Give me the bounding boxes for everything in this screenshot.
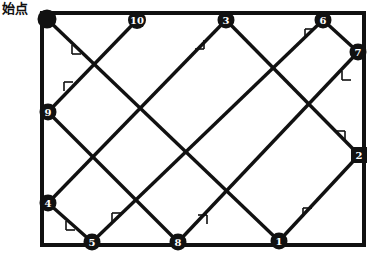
path-segment-1-to-2 bbox=[279, 155, 359, 241]
bounce-node-shape bbox=[84, 234, 101, 251]
bounce-node-1: 1 bbox=[271, 233, 288, 250]
bounce-node-shape bbox=[40, 104, 57, 121]
path-segment-7-to-8 bbox=[178, 52, 358, 242]
bounce-node-8: 8 bbox=[170, 234, 187, 251]
tick-7-to-8 bbox=[342, 71, 351, 80]
path-segment-4-to-5 bbox=[48, 203, 92, 242]
table-border-group bbox=[42, 13, 364, 245]
bounce-node-shape bbox=[128, 11, 146, 29]
bounce-node-shape bbox=[315, 12, 332, 29]
table-border bbox=[42, 13, 364, 245]
bounce-node-shape bbox=[351, 147, 367, 163]
start-point-marker bbox=[38, 10, 57, 29]
diagram-canvas: 12345678910 bbox=[0, 0, 374, 261]
bounce-node-5: 5 bbox=[84, 234, 101, 251]
bounce-node-4: 4 bbox=[40, 195, 57, 212]
bounce-node-shape bbox=[40, 195, 57, 212]
bounce-node-10: 10 bbox=[128, 11, 146, 29]
reflection-path-figure: 始点 12345678910 bbox=[0, 0, 374, 261]
bounce-node-3: 3 bbox=[218, 12, 235, 29]
path-segments-group bbox=[47, 19, 359, 242]
bounce-node-2: 2 bbox=[351, 147, 367, 163]
bounce-node-shape bbox=[350, 44, 367, 61]
bounce-node-6: 6 bbox=[315, 12, 332, 29]
bounce-node-9: 9 bbox=[40, 104, 57, 121]
path-segment-2-to-3 bbox=[226, 20, 359, 155]
bounce-node-shape bbox=[271, 233, 288, 250]
path-segment-start-to-1 bbox=[47, 19, 279, 241]
bounce-node-shape bbox=[218, 12, 235, 29]
bounce-node-7: 7 bbox=[350, 44, 367, 61]
bounce-node-shape bbox=[170, 234, 187, 251]
